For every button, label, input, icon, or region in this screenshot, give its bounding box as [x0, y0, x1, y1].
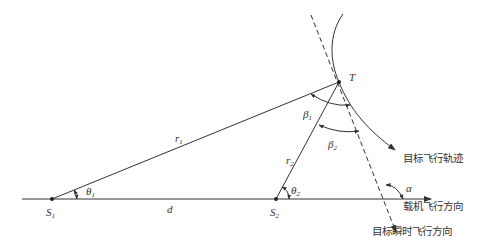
label-d: d: [167, 203, 173, 215]
label-s2: S2: [270, 206, 280, 220]
label-alpha: α: [406, 182, 412, 194]
label-beta1: β1: [302, 108, 312, 122]
geometry-diagram: T S1 S2 r1 r2 d θ1 θ2 β1 β2 α 目标飞行轨迹 载机飞…: [0, 0, 484, 248]
target-trajectory-curve: [332, 14, 395, 150]
arc-beta2: [319, 125, 359, 132]
annotation-target-instant-direction: 目标瞬时飞行方向: [372, 225, 452, 237]
annotation-target-trajectory: 目标飞行轨迹: [403, 152, 464, 164]
point-s2: [274, 197, 278, 201]
point-s1: [50, 197, 54, 201]
label-s1: S1: [46, 206, 55, 220]
arc-alpha: [386, 185, 403, 199]
arc-theta1: [74, 190, 77, 199]
segment-r1: [52, 82, 339, 199]
label-theta2: θ2: [291, 184, 300, 198]
label-r2: r2: [286, 154, 294, 168]
label-beta2: β2: [327, 138, 337, 152]
annotation-carrier-direction: 载机飞行方向: [403, 200, 463, 212]
label-theta1: θ1: [86, 185, 95, 199]
point-t: [337, 80, 341, 84]
label-r1: r1: [175, 132, 183, 146]
arc-theta2: [282, 187, 289, 199]
label-t: T: [349, 71, 356, 83]
